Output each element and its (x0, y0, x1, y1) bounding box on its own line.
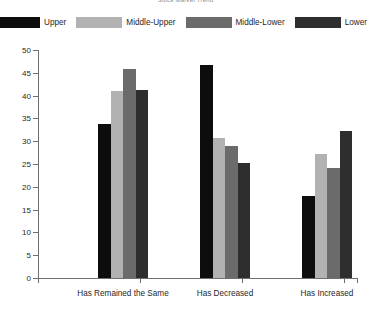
y-axis-tick-label: 35 (22, 114, 31, 123)
x-axis-category-label: Has Remained the Same (77, 289, 168, 298)
legend-swatch-icon (0, 17, 40, 28)
y-axis-tick-label: 25 (22, 160, 31, 169)
bar (98, 124, 111, 278)
bar (340, 131, 353, 278)
chart-title: Stock Market Trend (0, 0, 371, 4)
legend-label: Middle-Lower (236, 17, 285, 28)
bar (111, 91, 124, 278)
legend-item-middle-lower: Middle-Lower (186, 15, 295, 29)
y-axis-tick (33, 118, 38, 119)
x-axis-tick (344, 278, 345, 283)
x-axis-tick (140, 278, 141, 283)
y-axis-tick (33, 50, 38, 51)
y-axis-tick (33, 141, 38, 142)
legend-label: Lower (345, 17, 367, 28)
legend-item-middle-upper: Middle-Upper (76, 15, 185, 29)
x-axis-tick (38, 278, 39, 283)
y-axis-tick (33, 210, 38, 211)
y-axis-tick (33, 255, 38, 256)
bar (238, 163, 251, 278)
y-axis-tick (33, 164, 38, 165)
y-axis-tick-label: 40 (22, 91, 31, 100)
y-axis-tick-label: 20 (22, 182, 31, 191)
y-axis-tick-label: 30 (22, 137, 31, 146)
legend-swatch-icon (295, 17, 341, 28)
bar (225, 146, 238, 278)
y-axis-tick-label: 0 (27, 274, 31, 283)
x-axis-tick (357, 278, 358, 283)
legend-item-lower: Lower (295, 15, 371, 29)
legend-label: Upper (44, 17, 66, 28)
legend-label: Middle-Upper (126, 17, 175, 28)
y-axis-tick (33, 73, 38, 74)
x-axis-category-label: Has Decreased (197, 289, 253, 298)
x-axis-category-label: Has Increased (301, 289, 354, 298)
bar-chart: Stock Market Trend UpperMiddle-UpperMidd… (0, 0, 371, 315)
y-axis-tick-label: 5 (27, 251, 31, 260)
y-axis-tick (33, 232, 38, 233)
bar (200, 65, 213, 278)
legend-item-upper: Upper (0, 15, 76, 29)
y-axis-tick-label: 45 (22, 68, 31, 77)
plot-area: 05101520253035404550Has Remained the Sam… (38, 50, 358, 278)
y-axis-tick-label: 50 (22, 46, 31, 55)
legend-swatch-icon (76, 17, 122, 28)
bar (213, 138, 226, 278)
y-axis-tick (33, 187, 38, 188)
y-axis-tick (33, 96, 38, 97)
y-axis (38, 50, 39, 278)
y-axis-tick-label: 15 (22, 205, 31, 214)
x-axis-tick (242, 278, 243, 283)
bar (123, 69, 136, 278)
bar (315, 154, 328, 278)
bar (302, 196, 315, 278)
y-axis-tick-label: 10 (22, 228, 31, 237)
x-axis (38, 278, 358, 279)
chart-legend: UpperMiddle-UpperMiddle-LowerLower (0, 15, 371, 29)
bar (327, 168, 340, 278)
bar (136, 90, 149, 278)
legend-swatch-icon (186, 17, 232, 28)
